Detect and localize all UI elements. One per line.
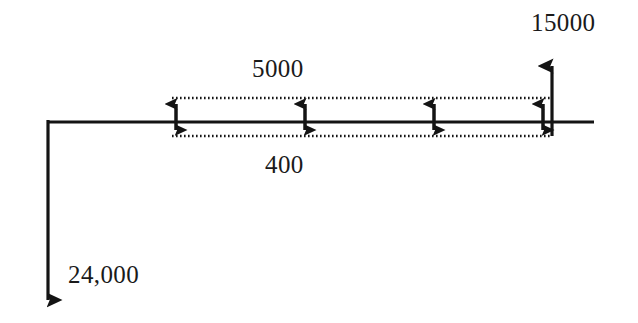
top-span-label: 5000 bbox=[252, 56, 304, 81]
beam-load-diagram: 5000 400 15000 24,000 bbox=[0, 0, 638, 323]
bottom-span-label: 400 bbox=[265, 152, 304, 177]
left-reaction-label: 24,000 bbox=[68, 262, 139, 287]
right-load-label: 15000 bbox=[531, 10, 596, 35]
